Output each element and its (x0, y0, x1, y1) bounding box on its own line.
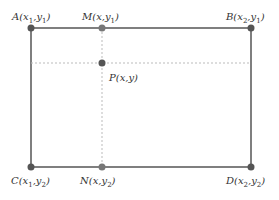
label-n: N(x,y2) (80, 176, 116, 189)
label-b: B(x2,y1) (226, 12, 265, 25)
label-p: P(x,y) (109, 73, 138, 83)
label-a: A(x1,y1) (12, 12, 50, 25)
point-c (28, 164, 35, 171)
rectangle (31, 28, 251, 167)
point-m (99, 25, 106, 32)
point-b (248, 25, 255, 32)
point-d (248, 164, 255, 171)
label-c: C(x1,y2) (11, 176, 50, 189)
point-n (99, 164, 106, 171)
label-m: M(x,y1) (82, 12, 119, 25)
point-p (99, 60, 106, 67)
point-a (28, 25, 35, 32)
label-d: D(x2,y2) (226, 176, 265, 189)
diagram-canvas (0, 0, 279, 200)
